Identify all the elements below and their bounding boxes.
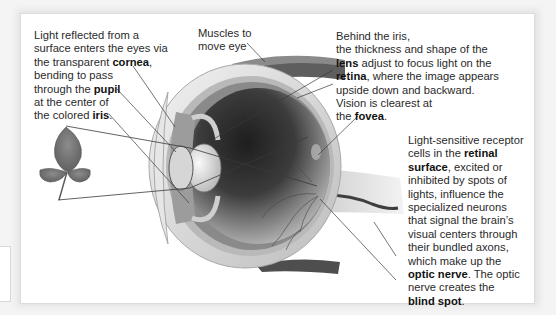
optic-nerve-label: Light-sensitive receptor cells in the re… (408, 134, 524, 308)
term-lens: lens (336, 57, 358, 69)
term-retinal: retinal (464, 147, 498, 159)
term-fovea: fovea (355, 110, 384, 122)
term-cornea: cornea (112, 56, 149, 68)
term-surface: surface (408, 161, 448, 173)
muscles-label: Muscles to move eye (198, 27, 251, 54)
cornea-pupil-iris-label: Light reflected from a surface enters th… (34, 29, 168, 123)
term-optic-nerve: optic nerve (408, 268, 468, 280)
fovea (311, 144, 321, 160)
term-blind-spot: blind spot (408, 295, 461, 307)
term-pupil: pupil (94, 83, 121, 95)
term-iris: iris (92, 109, 109, 121)
pupil (169, 146, 193, 190)
lens-retina-fovea-label: Behind the iris, the thickness and shape… (336, 30, 499, 124)
term-retina: retina (336, 70, 366, 82)
leaf-icon (40, 127, 91, 200)
